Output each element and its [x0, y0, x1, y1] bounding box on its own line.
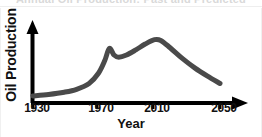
oil-production-curve: [33, 39, 220, 96]
x-tick-label-2050: 2050: [201, 101, 247, 115]
x-tick-label-2010: 2010: [134, 101, 180, 115]
x-axis-label: Year: [0, 116, 262, 131]
x-tick-label-1970: 1970: [78, 101, 124, 115]
chart-figure: Annual Oil Production: Past and Predicte…: [0, 0, 262, 137]
y-axis: [27, 20, 39, 103]
title-divider: [0, 6, 262, 7]
x-tick-label-1930: 1930: [14, 101, 60, 115]
y-axis-label: Oil Production: [3, 7, 19, 103]
